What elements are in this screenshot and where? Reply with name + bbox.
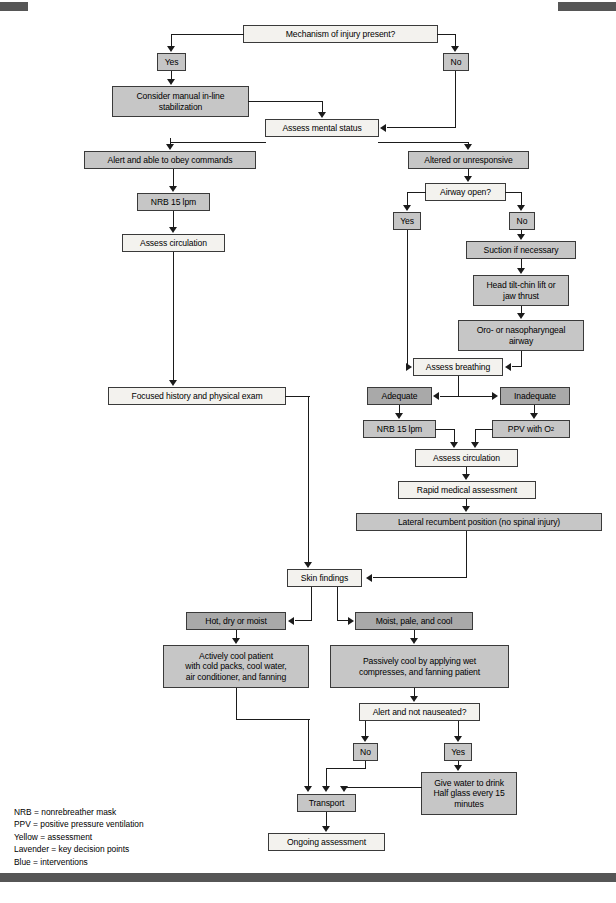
arrow-alert-to-nrb — [169, 186, 177, 192]
node-ppv-with-o2[interactable]: PPV with O2 — [492, 420, 570, 438]
arrow-inadequate-to-ppv — [530, 413, 538, 419]
edge-focused-to-skin-v — [308, 396, 309, 562]
node-manual-stabilization[interactable]: Consider manual in-line stabilization — [112, 86, 249, 117]
arrow-adequate-to-nrb — [395, 413, 403, 419]
arrow-circr-to-rapid — [462, 474, 470, 480]
node-transport[interactable]: Transport — [297, 794, 356, 812]
edge-circ-to-focused — [173, 252, 174, 380]
edge-skin-to-moist-v — [337, 587, 338, 621]
node-alert-yes[interactable]: Yes — [444, 743, 472, 761]
edge-lateral-to-skin-v — [466, 531, 467, 578]
node-assess-mental-status[interactable]: Assess mental status — [265, 119, 379, 137]
page-bar-top-right — [558, 2, 616, 11]
node-alert-no[interactable]: No — [353, 743, 378, 761]
edge-stab-to-ams — [248, 101, 323, 102]
edge-nrbr-to-circ-h — [435, 429, 455, 430]
edge-ayes-to-breathing-v — [407, 230, 408, 367]
edge-airway-to-yes — [407, 192, 426, 193]
legend: NRB = nonrebreather mask PPV = positive … — [14, 806, 144, 868]
arrow-focused-to-skin — [304, 562, 312, 568]
arrow-nrbr-to-circ — [450, 442, 458, 448]
arrow-lateral-to-skin — [366, 574, 372, 582]
node-focused-history[interactable]: Focused history and physical exam — [108, 387, 286, 405]
node-ongoing-assessment[interactable]: Ongoing assessment — [268, 833, 385, 851]
arrow-moist-to-passive — [410, 638, 418, 644]
edge-moist-to-passive — [414, 630, 415, 638]
legend-line-yellow: Yellow = assessment — [14, 831, 144, 843]
edge-airway-to-no-v — [521, 192, 522, 205]
edge-breathing-to-adequate — [440, 396, 459, 397]
edge-oro-to-breathing-h — [512, 366, 522, 367]
arrow-skin-to-moist — [348, 617, 354, 625]
arrow-hot-to-active — [232, 638, 240, 644]
node-rapid-medical-assessment[interactable]: Rapid medical assessment — [398, 481, 536, 499]
arrow-ams-to-altered — [464, 144, 472, 150]
arrow-no-to-suction — [517, 234, 525, 240]
edge-breathing-split-v — [458, 376, 459, 396]
arrow-breathing-to-adequate — [433, 392, 439, 400]
legend-line-nrb: NRB = nonrebreather mask — [14, 806, 144, 818]
legend-line-ppv: PPV = positive pressure ventilation — [14, 818, 144, 830]
edge-lateral-to-skin-h — [373, 577, 467, 578]
arrow-skin-to-hot — [288, 617, 294, 625]
node-moi-yes[interactable]: Yes — [157, 53, 186, 71]
arrow-headtilt-to-oro — [517, 313, 525, 319]
node-altered-or-unresponsive[interactable]: Altered or unresponsive — [408, 151, 529, 169]
arrow-stab-to-ams — [318, 112, 326, 118]
arrow-moi-to-yes — [167, 46, 175, 52]
node-oro-naso-airway[interactable]: Oro- or nasopharyngeal airway — [458, 320, 584, 351]
node-lateral-recumbent[interactable]: Lateral recumbent position (no spinal in… — [356, 513, 602, 531]
node-hot-dry-moist[interactable]: Hot, dry or moist — [186, 612, 286, 630]
arrow-ams-to-alert — [166, 144, 174, 150]
edge-active-to-transport — [308, 719, 309, 787]
edge-no-left — [326, 768, 366, 769]
node-suction[interactable]: Suction if necessary — [466, 241, 576, 259]
node-nrb-right[interactable]: NRB 15 lpm — [363, 420, 436, 438]
legend-line-blue: Blue = interventions — [14, 856, 144, 868]
edge-altered-to-airway — [468, 169, 469, 176]
node-give-water[interactable]: Give water to drink Half glass every 15 … — [421, 772, 517, 815]
edge-transport-to-ongoing — [326, 812, 327, 826]
legend-line-lavender: Lavender = key decision points — [14, 843, 144, 855]
arrow-active-to-transport — [304, 786, 312, 792]
node-mechanism-of-injury[interactable]: Mechanism of injury present? — [243, 25, 438, 43]
edge-skin-to-moist-h — [337, 620, 348, 621]
node-airway-yes[interactable]: Yes — [393, 212, 421, 230]
arrow-nrb-to-circ — [169, 227, 177, 233]
node-adequate[interactable]: Adequate — [367, 387, 432, 405]
node-airway-no[interactable]: No — [509, 212, 535, 230]
arrow-no-to-transport — [322, 786, 330, 792]
edge-active-down — [236, 688, 237, 720]
edge-breathing-to-inadequate — [458, 396, 492, 397]
arrow-alertq-to-yes — [454, 736, 462, 742]
edge-nrbr-to-circ-v — [454, 429, 455, 442]
edge-focused-to-skin-h — [285, 396, 310, 397]
arrow-rapid-to-lateral — [462, 506, 470, 512]
arrow-alertq-to-no — [361, 736, 369, 742]
node-actively-cool[interactable]: Actively cool patient with cold packs, c… — [163, 645, 309, 688]
edge-skin-to-hot-v — [311, 587, 312, 621]
node-alert-obey-commands[interactable]: Alert and able to obey commands — [84, 151, 256, 169]
arrow-ppv-to-circ — [471, 442, 479, 448]
arrow-airway-to-yes — [403, 205, 411, 211]
node-assess-breathing[interactable]: Assess breathing — [413, 358, 503, 376]
node-alert-not-nauseated[interactable]: Alert and not nauseated? — [359, 703, 480, 721]
edge-water-left — [344, 787, 422, 788]
node-moist-pale-cool[interactable]: Moist, pale, and cool — [355, 612, 473, 630]
edge-passive-to-alertq — [414, 688, 415, 696]
node-nrb-left[interactable]: NRB 15 lpm — [137, 193, 210, 211]
edge-airway-to-yes-v — [407, 192, 408, 205]
edge-no-to-ams-h — [387, 127, 456, 128]
node-assess-circulation-left[interactable]: Assess circulation — [122, 234, 225, 252]
node-head-tilt-chin-lift[interactable]: Head tilt-chin lift or jaw thrust — [473, 275, 569, 306]
node-passively-cool[interactable]: Passively cool by applying wet compresse… — [330, 645, 509, 688]
arrow-water-to-transport — [340, 786, 348, 792]
edge-moi-to-no — [437, 34, 456, 35]
node-airway-open[interactable]: Airway open? — [425, 183, 506, 201]
node-assess-circulation-right[interactable]: Assess circulation — [415, 449, 518, 467]
edge-active-right — [236, 719, 310, 720]
node-moi-no[interactable]: No — [443, 53, 469, 71]
node-skin-findings[interactable]: Skin findings — [287, 569, 362, 587]
node-inadequate[interactable]: Inadequate — [500, 387, 570, 405]
arrow-passive-to-alertq — [410, 696, 418, 702]
